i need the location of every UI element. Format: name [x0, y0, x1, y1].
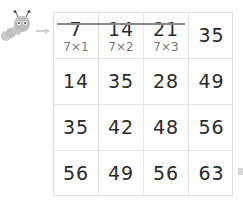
cell-value: 48 [153, 116, 179, 138]
number-grid: 77×1 147×2 217×3 35 14 35 28 49 35 42 48… [53, 12, 233, 196]
cell-annotation: 7×3 [144, 40, 188, 54]
cell-value: 14 [63, 70, 89, 92]
cell-value: 42 [108, 116, 134, 138]
cell-value: 49 [108, 162, 134, 184]
arrow-right-icon [36, 28, 50, 34]
grid-cell[interactable]: 35 [99, 59, 144, 105]
cell-value: 56 [153, 162, 179, 184]
grid-cell[interactable]: 56 [189, 105, 234, 151]
grid-cell[interactable]: 42 [99, 105, 144, 151]
cell-value: 14 [108, 18, 134, 40]
caterpillar-icon [0, 10, 34, 44]
cell-value: 56 [63, 162, 89, 184]
cell-value: 35 [63, 116, 89, 138]
grid-cell[interactable]: 49 [99, 151, 144, 197]
grid-cell[interactable]: 63 [189, 151, 234, 197]
grid-cell[interactable]: 35 [54, 105, 99, 151]
grid-cell[interactable]: 49 [189, 59, 234, 105]
grid-cell[interactable]: 28 [144, 59, 189, 105]
grid-cell[interactable]: 56 [144, 151, 189, 197]
path-line [57, 23, 185, 25]
grid-cell[interactable]: 14 [54, 59, 99, 105]
cell-annotation: 7×2 [99, 40, 143, 54]
cell-value: 21 [153, 18, 179, 40]
grid-cell[interactable]: 77×1 [54, 13, 99, 59]
cell-value: 28 [153, 70, 179, 92]
cell-value: 63 [198, 162, 224, 184]
cell-value: 49 [198, 70, 224, 92]
grid-cell[interactable]: 147×2 [99, 13, 144, 59]
cell-value: 56 [198, 116, 224, 138]
cell-value: 35 [198, 24, 224, 46]
cell-value: 7 [69, 18, 82, 40]
exit-marker [238, 168, 243, 175]
cell-annotation: 7×1 [54, 40, 98, 54]
cell-value: 35 [108, 70, 134, 92]
grid-cell[interactable]: 56 [54, 151, 99, 197]
grid-cell[interactable]: 48 [144, 105, 189, 151]
grid-cell[interactable]: 217×3 [144, 13, 189, 59]
grid-cell[interactable]: 35 [189, 13, 234, 59]
